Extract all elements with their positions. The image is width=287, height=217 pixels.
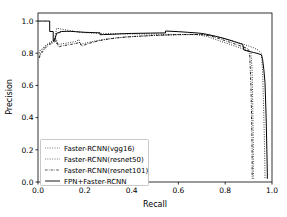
chart-legend: Faster-RCNN(vgg16)Faster-RCNN(resnet50)F… — [41, 140, 149, 186]
y-tick-label-5: 1.0 — [22, 17, 34, 26]
y-axis-ticks: 0.00.20.40.60.81.0 — [22, 17, 38, 187]
x-tick-label-2: 0.4 — [126, 186, 138, 195]
x-tick-label-3: 0.6 — [172, 186, 184, 195]
x-tick-label-4: 0.8 — [219, 186, 231, 195]
legend-label-2: Faster-RCNN(resnet101) — [64, 167, 148, 175]
x-tick-label-1: 0.2 — [79, 186, 91, 195]
legend-label-0: Faster-RCNN(vgg16) — [64, 145, 135, 153]
legend-label-1: Faster-RCNN(resnet50) — [64, 156, 144, 164]
precision-recall-figure: 0.00.20.40.60.81.0 0.00.20.40.60.81.0 Re… — [0, 0, 287, 217]
legend-label-3: FPN+Faster-RCNN — [64, 178, 127, 186]
y-axis-title: Precision — [5, 79, 14, 115]
x-tick-label-5: 1.0 — [266, 186, 278, 195]
y-tick-label-0: 0.0 — [22, 178, 34, 187]
y-tick-label-1: 0.2 — [22, 146, 34, 155]
x-tick-label-0: 0.0 — [32, 186, 44, 195]
chart-canvas: 0.00.20.40.60.81.0 0.00.20.40.60.81.0 Re… — [0, 0, 287, 217]
x-axis-title: Recall — [143, 200, 167, 209]
y-tick-label-2: 0.4 — [22, 113, 34, 122]
y-tick-label-4: 0.8 — [22, 49, 34, 58]
y-tick-label-3: 0.6 — [22, 81, 34, 90]
